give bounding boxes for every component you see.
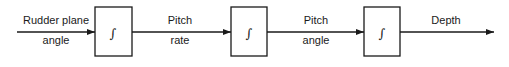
pitch-rate-label-line1: Pitch: [168, 14, 192, 27]
integral-icon: ∫: [110, 26, 117, 41]
pitch-rate-label-line2: rate: [171, 34, 190, 47]
input-label-line2: angle: [43, 34, 70, 47]
pitch-angle-label-line2: angle: [303, 34, 330, 47]
depth-label: Depth: [431, 14, 460, 27]
integral-icon: ∫: [246, 26, 253, 41]
integral-icon: ∫: [379, 26, 386, 41]
input-label-line1: Rudder plane: [23, 14, 89, 27]
block-diagram-canvas: [0, 0, 509, 67]
pitch-angle-label-line1: Pitch: [304, 14, 328, 27]
